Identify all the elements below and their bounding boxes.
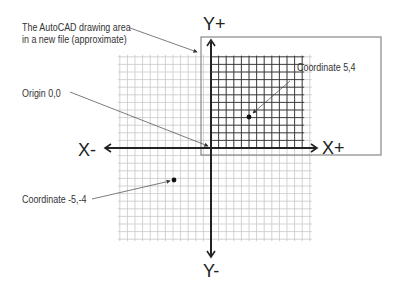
coord-pos-label: Coordinate 5,4: [297, 61, 356, 73]
drawing-area-label-line2: in a new file (approximate): [22, 33, 127, 45]
point-5-4: [247, 115, 252, 120]
origin-label: Origin 0,0: [22, 87, 61, 99]
x-minus-label: X-: [78, 141, 96, 159]
y-minus-label: Y-: [203, 262, 219, 280]
origin-leader: [70, 92, 208, 146]
drawing-area-leader: [130, 28, 197, 52]
x-plus-label: X+: [322, 139, 345, 157]
y-plus-label: Y+: [203, 15, 226, 33]
coord-neg-leader: [92, 181, 170, 199]
point-neg5-neg4: [172, 178, 177, 183]
drawing-area-frame: [201, 37, 381, 155]
coord-neg-label: Coordinate -5,-4: [22, 193, 86, 205]
drawing-area-label-line1: The AutoCAD drawing area: [22, 21, 131, 33]
dark-grid: [211, 56, 304, 148]
